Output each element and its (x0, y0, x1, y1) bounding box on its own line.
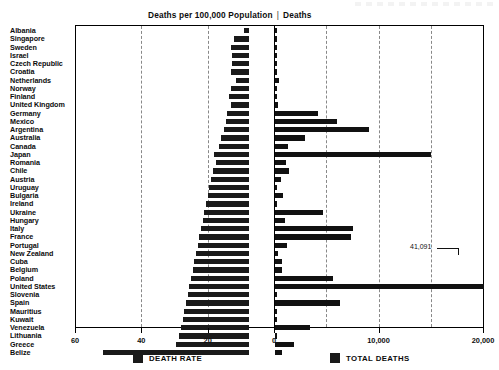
total-deaths-bar (275, 342, 295, 347)
death-rate-bar (198, 243, 249, 248)
axis-tick (379, 328, 380, 333)
total-deaths-bar (275, 325, 311, 330)
total-deaths-bar (275, 86, 277, 91)
bar-row (75, 118, 484, 126)
total-deaths-bar (275, 69, 277, 74)
bar-row (75, 291, 484, 299)
axis-tick (274, 328, 275, 333)
death-rate-swatch-icon (133, 353, 143, 363)
total-deaths-bar (275, 309, 277, 314)
bar-row (75, 299, 484, 307)
bar-row (75, 93, 484, 101)
death-rate-bar (204, 210, 249, 215)
death-rate-bar (194, 259, 249, 264)
death-rate-bar (201, 226, 249, 231)
death-rate-bar (226, 119, 249, 124)
total-deaths-bar (275, 127, 369, 132)
death-rate-bar (181, 325, 249, 330)
death-rate-bar (176, 342, 249, 347)
bar-row (75, 283, 484, 291)
category-labels: AlbaniaSingaporeSwedenIsraelCzech Republ… (10, 27, 72, 357)
bar-row (75, 52, 484, 60)
total-deaths-bar (275, 53, 277, 58)
total-deaths-bar (275, 317, 277, 322)
total-deaths-bar (275, 300, 341, 305)
header-divider: | (273, 10, 283, 20)
axis-tick (141, 328, 142, 333)
us-annotation-leader-drop (458, 248, 459, 255)
death-rate-bar (186, 300, 249, 305)
total-deaths-bar (275, 94, 277, 99)
death-rate-bar (216, 160, 249, 165)
bar-row (75, 44, 484, 52)
legend-item-total-deaths: TOTAL DEATHS (330, 353, 410, 363)
bar-row (75, 151, 484, 159)
total-deaths-bar (275, 243, 288, 248)
axis-tick-label: 0 (272, 336, 276, 345)
chart-container: Deaths per 100,000 Population|Deaths Alb… (0, 0, 499, 370)
death-rate-bar (227, 111, 249, 116)
bar-row (75, 192, 484, 200)
total-deaths-bar (275, 28, 277, 33)
chart-header: Deaths per 100,000 Population|Deaths (148, 10, 312, 20)
bar-row (75, 60, 484, 68)
bar-row (75, 176, 484, 184)
right-axis-title: Deaths (283, 10, 312, 20)
bar-row (75, 77, 484, 85)
death-rate-bar (221, 135, 249, 140)
axis-tick (75, 328, 76, 333)
total-deaths-bar (275, 135, 305, 140)
bar-row (75, 85, 484, 93)
total-deaths-bar (275, 259, 282, 264)
death-rate-bar (206, 201, 249, 206)
bar-row (75, 27, 484, 35)
bar-row (75, 143, 484, 151)
death-rate-bar (244, 28, 249, 33)
death-rate-bar (231, 86, 249, 91)
total-deaths-bar (275, 251, 278, 256)
bar-row (75, 159, 484, 167)
death-rate-bar (231, 69, 249, 74)
axis-tick-label: 10,000 (367, 336, 390, 345)
bar-row (75, 258, 484, 266)
axis-tick-label: 20,000 (472, 336, 495, 345)
bar-row (75, 200, 484, 208)
axis-tick-label: 40 (137, 336, 145, 345)
total-deaths-bar (275, 201, 278, 206)
total-deaths-bar (275, 144, 289, 149)
bar-row (75, 101, 484, 109)
axis-tick (208, 328, 209, 333)
bar-rows (75, 27, 484, 324)
legend-label-death-rate: DEATH RATE (149, 354, 202, 363)
total-deaths-bar (275, 160, 286, 165)
axis-tick-label: 20 (204, 336, 212, 345)
total-deaths-bar (275, 152, 432, 157)
bar-row (75, 308, 484, 316)
bar-row (75, 324, 484, 332)
total-deaths-bar (275, 226, 353, 231)
death-rate-bar (183, 317, 249, 322)
death-rate-bar (179, 333, 249, 338)
bar-row (75, 225, 484, 233)
death-rate-bar (214, 152, 249, 157)
death-rate-bar (184, 309, 249, 314)
bar-row (75, 134, 484, 142)
total-deaths-swatch-icon (330, 353, 340, 363)
total-deaths-bar (275, 61, 278, 66)
us-annotation-leader-line (437, 248, 459, 249)
bar-row (75, 68, 484, 76)
total-deaths-bar (275, 284, 484, 289)
bar-row (75, 35, 484, 43)
bar-row (75, 250, 484, 258)
death-rate-bar (193, 267, 249, 272)
legend-label-total-deaths: TOTAL DEATHS (346, 354, 410, 363)
total-deaths-bar (275, 267, 283, 272)
death-rate-bar (211, 177, 249, 182)
total-deaths-bar (275, 218, 285, 223)
total-deaths-bar (275, 292, 277, 297)
death-rate-bar (203, 218, 249, 223)
total-deaths-bar (275, 102, 278, 107)
death-rate-bar (231, 102, 249, 107)
total-deaths-bar (275, 45, 277, 50)
bar-row (75, 316, 484, 324)
